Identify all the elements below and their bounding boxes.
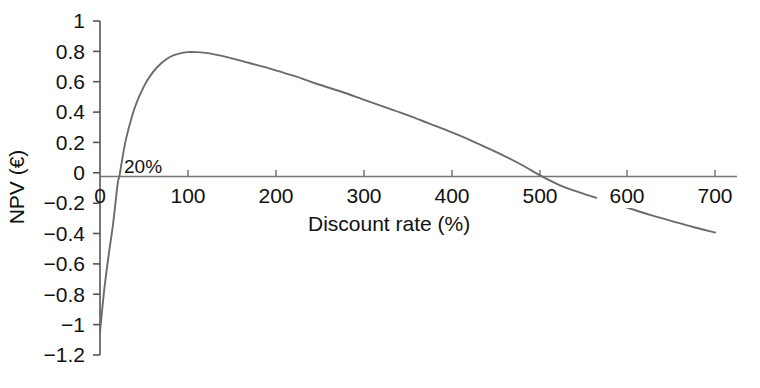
x-tick-label-0: 0 <box>88 185 112 206</box>
x-tick-label-500: 500 <box>510 185 570 206</box>
npv-discount-rate-chart: 1 0.8 0.6 0.4 0.2 0 −0.2 −0.4 −0.6 −0.8 … <box>0 0 760 388</box>
x-tick-label-300: 300 <box>334 185 394 206</box>
x-tick-label-600: 600 <box>597 185 657 206</box>
x-tick-label-200: 200 <box>246 185 306 206</box>
y-tick-label-m1: −1 <box>30 314 85 335</box>
y-tick-label-0-8: 0.8 <box>30 41 85 62</box>
y-tick-label-m0-6: −0.6 <box>20 253 85 274</box>
y-axis-title: NPV (€) <box>5 137 29 237</box>
y-tick-label-0-2: 0.2 <box>30 132 85 153</box>
y-tick-label-m1-2: −1.2 <box>20 344 85 365</box>
x-tick-label-100: 100 <box>158 185 218 206</box>
y-tick-label-1: 1 <box>40 10 85 31</box>
x-tick-label-700: 700 <box>685 185 745 206</box>
y-tick-label-m0-4: −0.4 <box>20 223 85 244</box>
y-tick-label-0-4: 0.4 <box>30 101 85 122</box>
y-tick-label-m0-2: −0.2 <box>20 192 85 213</box>
y-tick-label-0-6: 0.6 <box>30 71 85 92</box>
y-tick-label-0: 0 <box>40 162 85 183</box>
x-axis-ticks <box>188 170 715 177</box>
irr-annotation: 20% <box>124 156 162 178</box>
x-axis-title: Discount rate (%) <box>308 212 470 236</box>
y-tick-label-m0-8: −0.8 <box>20 284 85 305</box>
x-tick-label-400: 400 <box>422 185 482 206</box>
